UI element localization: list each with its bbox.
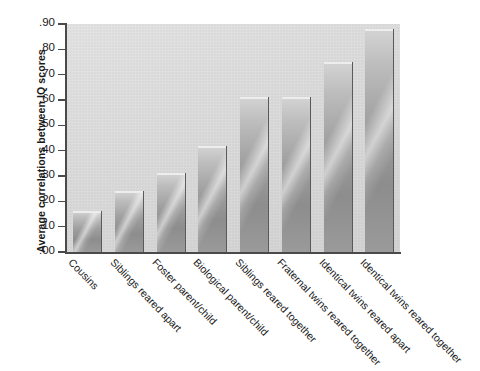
x-axis-label-2: Siblings reared apart [108,256,184,334]
x-axis-line [65,252,401,254]
bar-top-highlight [157,173,185,175]
y-tick-label: .20 [0,193,55,205]
bar-top-highlight [324,62,352,64]
y-tick-mark [58,201,66,202]
y-tick-label: .00 [0,244,55,256]
bar-top-highlight [282,97,310,99]
y-tick-mark [58,251,66,252]
y-tick-label: .30 [0,168,55,180]
y-axis-line [65,23,67,253]
bar [282,97,311,252]
bar [198,146,227,252]
x-axis-label-1: Cousins [66,256,101,292]
bar-top-highlight [73,211,101,213]
y-tick-label: .10 [0,219,55,231]
x-axis-label-4: Biological parent/child [192,256,272,338]
bar [157,173,186,252]
x-axis-label-5: Siblings reared together [233,256,319,345]
bar [115,191,144,252]
y-tick-mark [58,49,66,50]
bar-top-highlight [365,29,393,31]
y-tick-mark [58,226,66,227]
y-tick-mark [58,99,66,100]
y-tick-label: .90 [0,16,55,28]
y-tick-mark [58,74,66,75]
y-tick-label: .80 [0,41,55,53]
bar-top-highlight [198,146,226,148]
bar-top-highlight [115,191,143,193]
bar [73,211,102,252]
bar [365,29,394,252]
y-tick-label: .60 [0,92,55,104]
bar [324,62,353,252]
bar-chart: Average correlations between IQ scores .… [0,0,480,371]
bar [240,97,269,252]
y-tick-mark [58,23,66,24]
y-tick-label: .70 [0,67,55,79]
y-tick-mark [58,150,66,151]
y-tick-mark [58,175,66,176]
y-tick-label: .40 [0,143,55,155]
y-tick-label: .50 [0,117,55,129]
bar-top-highlight [240,97,268,99]
y-tick-mark [58,125,66,126]
